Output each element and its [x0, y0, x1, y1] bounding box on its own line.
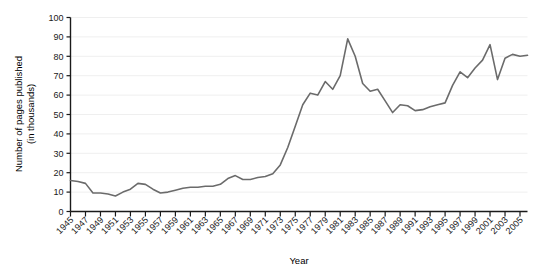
y-tick-label: 0: [58, 207, 63, 217]
x-axis-title: Year: [289, 255, 308, 266]
y-tick-label: 20: [53, 168, 63, 178]
y-tick-label: 50: [53, 110, 63, 120]
grid-lines: [71, 18, 528, 193]
line-chart: 0102030405060708090100 19451947194919511…: [0, 0, 541, 271]
y-tick-label: 80: [53, 52, 63, 62]
y-tick-label: 90: [53, 32, 63, 42]
y-tick-label: 60: [53, 90, 63, 100]
y-tick-label: 30: [53, 149, 63, 159]
x-tick-label: 2005: [504, 215, 525, 236]
y-tick-label: 70: [53, 71, 63, 81]
y-tick-label: 40: [53, 129, 63, 139]
y-axis-title-line1: Number of pages published: [13, 56, 24, 172]
x-axis-ticks: [71, 212, 521, 217]
chart-container: 0102030405060708090100 19451947194919511…: [0, 0, 541, 271]
y-tick-label: 10: [53, 187, 63, 197]
y-tick-label: 100: [48, 13, 63, 23]
y-axis-title-line2: (in thousands): [25, 84, 36, 144]
x-axis-tick-labels: 1945194719491951195319551957195919611963…: [54, 215, 525, 236]
y-axis-tick-labels: 0102030405060708090100: [48, 13, 63, 217]
